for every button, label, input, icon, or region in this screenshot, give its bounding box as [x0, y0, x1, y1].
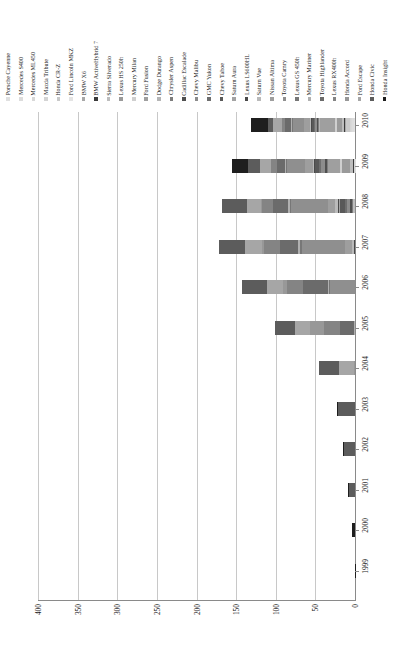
legend-item[interactable]: Lexus GS 450h [291, 0, 304, 104]
bar-segment [319, 361, 339, 375]
legend-item[interactable]: Dodge Durango [153, 0, 166, 104]
legend-item[interactable]: Honda Insight [378, 0, 391, 104]
legend-swatch-icon [283, 97, 287, 101]
legend-item[interactable]: Chevy Malibu [190, 0, 203, 104]
legend-swatch-icon [220, 97, 224, 101]
legend-item[interactable]: Nissan Altima [265, 0, 278, 104]
legend-item-label: Ford Escape [357, 65, 363, 96]
bar-segment [321, 159, 325, 173]
legend-item[interactable]: Sierra Silverado [102, 0, 115, 104]
bar-segment [275, 321, 296, 335]
legend-item-label: GMC Yukon [206, 64, 212, 95]
legend-item[interactable]: BMW X6 [77, 0, 90, 104]
bar-segment [262, 240, 265, 254]
bar-segment [340, 199, 345, 213]
legend-item[interactable]: Honda Accord [341, 0, 354, 104]
bar-segment [280, 240, 297, 254]
y-tick-label: 2010 [361, 113, 370, 128]
bar-segment [247, 199, 261, 213]
legend-item[interactable]: Toyota Camry [278, 0, 291, 104]
legend-swatch-icon [32, 97, 36, 101]
bar-segment [291, 199, 328, 213]
x-tick-label: 150 [232, 604, 241, 615]
x-tick-label: 50 [311, 604, 320, 611]
x-tick-label: 250 [153, 604, 162, 615]
bar-segment [340, 321, 354, 335]
legend-item[interactable]: Mercury Milan [127, 0, 140, 104]
bar-segment [346, 118, 350, 132]
bar-segment [282, 118, 285, 132]
legend-item[interactable]: Lexus LS600HL [240, 0, 253, 104]
legend-swatch-icon [19, 97, 23, 101]
bar-stack [0, 523, 402, 537]
bar-segment [352, 118, 354, 132]
legend-item[interactable]: Ford Escape [353, 0, 366, 104]
bar-segment [287, 159, 305, 173]
bar-segment [351, 118, 352, 132]
legend-item[interactable]: GMC Yukon [203, 0, 216, 104]
legend-swatch-icon [257, 97, 261, 101]
legend-swatch-icon [170, 97, 174, 101]
x-tick-label: 0 [351, 604, 360, 608]
legend-item[interactable]: Ford Lincoln MKZ [65, 0, 78, 104]
bar-stack [0, 159, 402, 173]
bar-segment [345, 118, 346, 132]
legend-swatch-icon [370, 97, 374, 101]
bar-segment [285, 118, 291, 132]
y-tick-label: 2000 [361, 518, 370, 533]
bar-segment [342, 159, 350, 173]
legend-item[interactable]: Cadillac Escalade [178, 0, 191, 104]
bar-segment [350, 159, 353, 173]
y-tick-mark [355, 368, 359, 369]
legend-item[interactable]: Mercury Mariner [303, 0, 316, 104]
legend-item[interactable]: Saturn Aura [228, 0, 241, 104]
bar-segment [300, 240, 302, 254]
bar-segment [222, 199, 247, 213]
bar-segment [273, 118, 282, 132]
legend-swatch-icon [232, 97, 236, 101]
legend-item[interactable]: BMW ActiveHybrid 7 [90, 0, 103, 104]
bar-stack [0, 361, 402, 375]
legend-item[interactable]: Mercedes S400 [15, 0, 28, 104]
legend-swatch-icon [358, 97, 362, 101]
legend-swatch-icon [82, 97, 86, 101]
bar-stack [0, 118, 402, 132]
legend-item[interactable]: Ford Fusion [140, 0, 153, 104]
bar-segment [314, 118, 315, 132]
legend-swatch-icon [107, 97, 111, 101]
x-tick-label: 350 [74, 604, 83, 615]
bar-segment [327, 159, 328, 173]
bar-segment [350, 199, 352, 213]
bar-segment [268, 118, 274, 132]
legend-item[interactable]: Porsche Cayenne [2, 0, 15, 104]
y-tick-mark [355, 328, 359, 329]
bar-segment [345, 199, 347, 213]
bar-segment [304, 118, 310, 132]
legend-item-label: Honda CR-Z [55, 64, 61, 96]
bar-segment [261, 199, 273, 213]
legend-item[interactable]: Lexus HS 250h [115, 0, 128, 104]
y-tick-mark [355, 409, 359, 410]
bar-segment [335, 199, 338, 213]
legend-item[interactable]: Saturn Vue [253, 0, 266, 104]
bar-segment [288, 199, 290, 213]
bar-segment [345, 240, 352, 254]
legend-item[interactable]: Lexus RX400h [328, 0, 341, 104]
legend-item-label: Lexus GS 450h [294, 57, 300, 95]
legend-item-label: BMW X6 [81, 71, 87, 95]
legend-item[interactable]: Chrysler Aspen [165, 0, 178, 104]
legend-item[interactable]: Mazda Tribute [40, 0, 53, 104]
bar-segment [290, 199, 291, 213]
legend-swatch-icon [119, 97, 123, 101]
bar-segment [352, 199, 353, 213]
legend-swatch-icon [182, 97, 186, 101]
bar-segment [271, 159, 277, 173]
legend-swatch-icon [295, 97, 299, 101]
legend-item[interactable]: Chevy Tahoe [215, 0, 228, 104]
legend-item[interactable]: Mercedes ML450 [27, 0, 40, 104]
legend-item-label: Chevy Malibu [193, 60, 199, 95]
legend-item[interactable]: Toyota Highlander [316, 0, 329, 104]
legend-item[interactable]: Honda Civic [366, 0, 379, 104]
chart-legend: Porsche CayenneMercedes S400Mercedes ML4… [0, 0, 402, 104]
legend-item[interactable]: Honda CR-Z [52, 0, 65, 104]
